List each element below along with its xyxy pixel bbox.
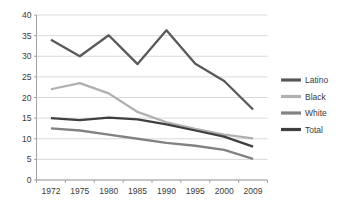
data-series-group xyxy=(51,30,253,159)
legend-label-latino: Latino xyxy=(305,75,328,85)
legend-label-white: White xyxy=(305,108,327,118)
x-axis-tick-label: 1990 xyxy=(157,186,176,196)
legend-label-total: Total xyxy=(305,125,323,135)
y-axis-tick-label: 40 xyxy=(22,10,32,20)
chart-canvas: 4035302520151050 19721975198019851990199… xyxy=(0,0,341,211)
y-axis-tick-label: 10 xyxy=(22,134,32,144)
x-axis-tick-label: 1980 xyxy=(99,186,118,196)
y-axis-tick-label: 15 xyxy=(22,113,32,123)
y-axis-labels-group: 4035302520151050 xyxy=(22,10,32,185)
x-axis-labels-group: 19721975198019851990199520002009 xyxy=(41,186,262,196)
line-chart: 4035302520151050 19721975198019851990199… xyxy=(0,0,341,211)
x-axis-tick-label: 1985 xyxy=(128,186,147,196)
x-axis-tick-label: 2009 xyxy=(244,186,263,196)
y-axis-tick-label: 30 xyxy=(22,51,32,61)
x-axis-tick-label: 1995 xyxy=(186,186,205,196)
x-axis-tick-label: 1972 xyxy=(41,186,60,196)
y-axis-tick-label: 25 xyxy=(22,72,32,82)
legend-label-black: Black xyxy=(305,92,327,102)
series-line-white xyxy=(51,128,253,159)
gridlines-group xyxy=(37,15,268,180)
y-axis-tick-label: 5 xyxy=(27,154,32,164)
y-axis-tick-label: 20 xyxy=(22,93,32,103)
x-axis-tick-label: 2000 xyxy=(215,186,234,196)
x-axis-tick-label: 1975 xyxy=(70,186,89,196)
y-axis-tick-label: 0 xyxy=(27,175,32,185)
legend: LatinoBlackWhiteTotal xyxy=(281,75,328,135)
y-axis-tick-label: 35 xyxy=(22,31,32,41)
series-line-total xyxy=(51,118,253,147)
